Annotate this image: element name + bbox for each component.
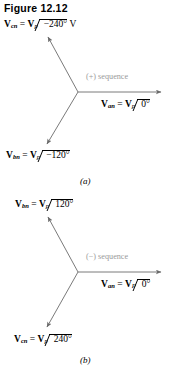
phasor-symbol: V [101,279,108,289]
figure-page: Figure 12.12 Vcn = Vp−240° V (+) sequenc… [0,0,174,373]
phasor-symbol: V [6,150,13,160]
magnitude-symbol: V [125,279,132,289]
phasor-label-a-vbn: Vbn = Vp−120° [6,150,70,161]
phasor-subscript: cn [21,337,28,344]
phasor-group-a [47,37,161,144]
angle-value: 0° [137,279,150,290]
phasor-symbol: V [14,334,21,344]
phasor-arrow-b-vcn [47,272,78,327]
equals-sign: = [117,99,122,109]
phasor-symbol: V [15,199,22,209]
phasor-group-b [47,217,161,327]
equals-sign: = [20,19,25,29]
phasor-subscript: bn [13,153,20,160]
phasor-label-b-vcn: Vcn = Vp240° [14,334,72,345]
phasor-label-a-van: Van = Vp0° [101,99,150,110]
phasor-subscript: cn [11,22,18,29]
equals-sign: = [22,150,27,160]
phasor-arrow-a-vcn [48,37,78,92]
equals-sign: = [30,334,35,344]
caption-b: (b) [80,355,91,365]
phasor-arrow-b-vbn [48,217,78,272]
unit-label: V [69,19,76,29]
angle-value: −120° [42,150,70,161]
equals-sign: = [31,199,36,209]
magnitude-symbol: V [125,99,132,109]
phasor-arrow-a-vbn [47,92,78,144]
phasor-label-a-vcn: Vcn = Vp−240° V [4,19,76,30]
phasor-diagrams-svg [0,0,174,373]
sequence-label-a: (+) sequence [86,73,128,81]
angle-value: −240° [39,19,67,30]
phasor-subscript: an [108,282,115,289]
phasor-symbol: V [101,99,108,109]
phasor-subscript: bn [22,202,29,209]
angle-value: 0° [137,99,150,110]
magnitude-symbol: V [30,150,37,160]
angle-value: 240° [49,334,72,345]
equals-sign: = [117,279,122,289]
phasor-label-b-van: Van = VP0° [101,279,150,290]
phasor-subscript: an [108,102,115,109]
sequence-label-b: (−) sequence [86,253,128,261]
angle-value: 120° [51,199,74,210]
phasor-label-b-vbn: Vbn = Vp120° [15,199,73,210]
magnitude-symbol: V [39,199,46,209]
caption-a: (a) [80,176,91,186]
phasor-symbol: V [4,19,11,29]
